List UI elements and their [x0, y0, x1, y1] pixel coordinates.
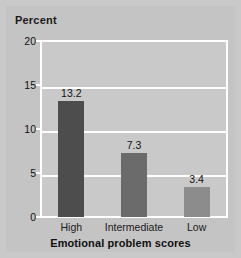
bar: [121, 153, 147, 217]
bar: [184, 187, 210, 217]
y-axis-tick-mark: [36, 40, 40, 42]
y-axis-tick-label: 20: [2, 35, 36, 47]
x-axis-category-label: Low: [152, 221, 241, 233]
y-axis-tick-label: 15: [2, 79, 36, 91]
y-axis-tick-group: 05101520: [0, 0, 36, 258]
x-axis-title: Emotional problem scores: [0, 237, 241, 249]
bar: [58, 101, 84, 217]
y-axis-tick-mark: [36, 216, 40, 218]
y-axis-tick-mark: [36, 128, 40, 130]
y-axis-tick-label: 5: [2, 167, 36, 179]
bar-value-label: 3.4: [171, 173, 223, 185]
bar-chart-figure: Percent 05101520 13.2High7.3Intermediate…: [0, 0, 241, 258]
y-axis-tick-mark: [36, 84, 40, 86]
y-axis-tick-mark: [36, 172, 40, 174]
bar-value-label: 13.2: [45, 87, 97, 99]
bar-value-label: 7.3: [108, 139, 160, 151]
y-axis-tick-label: 10: [2, 123, 36, 135]
